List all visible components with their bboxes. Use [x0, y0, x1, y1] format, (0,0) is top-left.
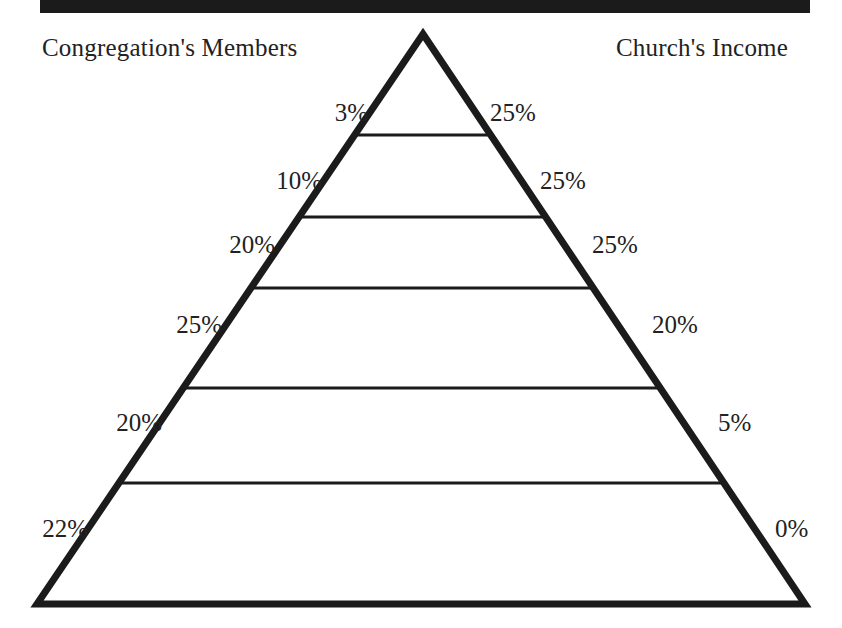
- right-percentage-label-1: 25%: [490, 100, 536, 125]
- right-percentage-label-6: 0%: [775, 516, 808, 541]
- right-percentage-label-4: 20%: [652, 312, 698, 337]
- left-percentage-label-1: 3%: [0, 100, 368, 125]
- figure-canvas: Congregation's Members Church's Income 3…: [0, 0, 842, 628]
- right-percentage-label-2: 25%: [540, 168, 586, 193]
- left-percentage-label-6: 22%: [0, 516, 88, 541]
- left-percentage-label-4: 25%: [0, 312, 222, 337]
- left-percentage-label-5: 20%: [0, 410, 162, 435]
- left-percentage-label-2: 10%: [0, 168, 322, 193]
- right-percentage-label-3: 25%: [592, 232, 638, 257]
- left-percentage-label-3: 20%: [0, 232, 275, 257]
- right-percentage-label-5: 5%: [718, 410, 751, 435]
